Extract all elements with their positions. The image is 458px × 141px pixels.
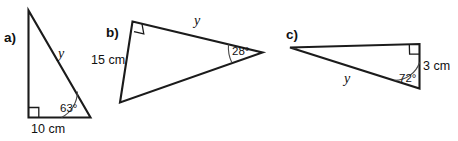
side-label-b: 15 cm bbox=[91, 54, 125, 67]
variable-label-c: y bbox=[344, 72, 350, 86]
variable-label-a: y bbox=[58, 47, 64, 61]
part-label-c: c) bbox=[286, 28, 298, 42]
triangle-a-right-angle-marker bbox=[29, 108, 39, 118]
side-label-c: 3 cm bbox=[423, 60, 450, 73]
triangle-b-right-angle-marker bbox=[134, 24, 144, 34]
angle-label-b: 28° bbox=[232, 46, 249, 58]
triangle-b-shape bbox=[120, 22, 263, 103]
part-label-a: a) bbox=[4, 31, 16, 45]
variable-label-b: y bbox=[194, 14, 200, 28]
side-label-a: 10 cm bbox=[31, 123, 65, 136]
part-label-b: b) bbox=[106, 26, 119, 40]
angle-label-c: 72° bbox=[399, 73, 416, 85]
triangle-c-right-angle-marker bbox=[409, 44, 419, 54]
triangles-svg bbox=[0, 0, 458, 141]
triangles-figure: a) y 63° 10 cm b) y 28° 15 cm c) y 72° 3… bbox=[0, 0, 458, 141]
angle-label-a: 63° bbox=[60, 103, 77, 115]
